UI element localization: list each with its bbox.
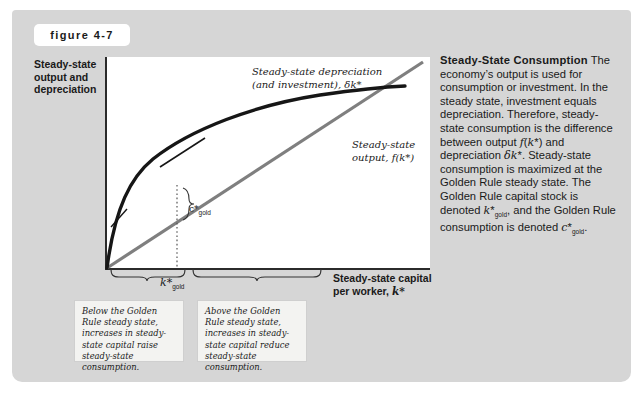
- depreciation-label-line1: Steady-state depreciation: [252, 66, 382, 77]
- figure-panel: figure 4-7 Steady-state output and depre…: [12, 10, 631, 382]
- x-axis-label-line2-prefix: per worker,: [333, 285, 392, 297]
- c-gold-variable: c*: [189, 204, 199, 214]
- x-axis-label-variable: k*: [392, 285, 405, 297]
- x-axis-label: Steady-state capital per worker, k*: [333, 272, 453, 297]
- depreciation-curve-label: Steady-state depreciation (and investmen…: [252, 65, 402, 91]
- depreciation-label-line2: (and investment), δk*: [252, 79, 361, 90]
- output-label-line2: output, f(k*): [352, 152, 414, 163]
- golden-rule-tangent: [160, 138, 205, 167]
- consumption-gold-label: c*gold: [189, 204, 211, 216]
- k-gold-subscript: gold: [172, 283, 184, 290]
- brace-above-golden-rule: [193, 269, 321, 281]
- x-axis-braces: [105, 268, 335, 282]
- c-gold-subscript: gold: [199, 209, 211, 216]
- output-curve-label: Steady-state output, f(k*): [352, 138, 438, 164]
- caption-block: Steady-State Consumption The economy’s o…: [440, 54, 618, 239]
- note-below-golden-rule: Below the Golden Rule steady state, incr…: [74, 300, 184, 362]
- figure-number-tag: figure 4-7: [34, 24, 130, 46]
- x-axis-label-line1: Steady-state capital: [333, 272, 432, 284]
- depreciation-line: [107, 62, 423, 268]
- caption-body: The economy’s output is used for consump…: [440, 54, 616, 233]
- caption-title: Steady-State Consumption: [440, 54, 588, 66]
- note-above-golden-rule: Above the Golden Rule steady state, incr…: [197, 300, 307, 362]
- output-label-line1: Steady-state: [352, 139, 415, 150]
- y-axis-label: Steady-state output and depreciation: [34, 58, 102, 96]
- brace-below-golden-rule: [111, 269, 185, 281]
